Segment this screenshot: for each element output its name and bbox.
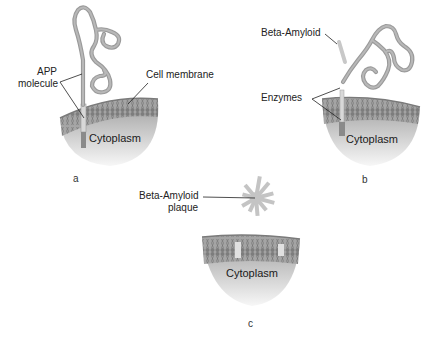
app-molecule-label-line1: APP	[37, 66, 57, 77]
app-remaining-stalk	[340, 90, 344, 122]
cell-membrane-band	[202, 235, 300, 264]
panel-c: Beta-Amyloid plaque Cytoplasm c	[139, 176, 300, 329]
panel-label-c: c	[248, 318, 253, 329]
panel-label-a: a	[73, 173, 79, 184]
beta-amyloid-plaque	[241, 176, 275, 216]
beta-amyloid-leader	[325, 34, 337, 44]
alzheimers-app-diagram: APP molecule Cell membrane Cytoplasm a B…	[0, 0, 437, 344]
app-molecule-label-line2: molecule	[18, 78, 58, 89]
membrane-gap	[278, 244, 284, 256]
released-app-coil	[343, 26, 412, 88]
app-intracellular-segment	[81, 132, 86, 148]
beta-amyloid-fragment	[339, 42, 345, 62]
panel-a: APP molecule Cell membrane Cytoplasm a	[18, 7, 214, 184]
panel-b: Beta-Amyloid Enzymes Cytoplasm b	[261, 26, 420, 185]
plaque-label-line1: Beta-Amyloid	[139, 190, 198, 201]
cytoplasm-label-b: Cytoplasm	[346, 133, 398, 145]
plaque-label-line2: plaque	[168, 202, 198, 213]
app-intracellular-segment	[339, 122, 345, 136]
enzymes-label: Enzymes	[261, 92, 302, 103]
cytoplasm-label-c: Cytoplasm	[226, 267, 278, 279]
panel-label-b: b	[362, 174, 368, 185]
cytoplasm-label-a: Cytoplasm	[89, 132, 141, 144]
membrane-gap	[235, 242, 241, 258]
cell-membrane-label: Cell membrane	[146, 69, 214, 80]
app-transmembrane-segment	[81, 104, 86, 132]
beta-amyloid-label: Beta-Amyloid	[261, 27, 320, 38]
